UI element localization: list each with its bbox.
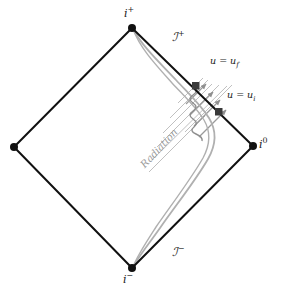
vertex-dot-left [10,143,18,151]
label-u-final-subscript: f [236,61,239,69]
label-i-minus-superscript: − [127,271,134,280]
penrose-diagram-figure: i+ i0 i− ℐ+ ℐ− u = uf u = ui Radiation [0,0,285,296]
scri-plus-superscript: + [178,29,185,38]
worldtube-outer-line [133,29,215,267]
penrose-diagram-canvas [0,0,285,296]
left-past-boundary-line [14,147,132,268]
label-scri-plus: ℐ+ [172,30,185,43]
radiation-rays-group [149,78,232,172]
vertex-dot-i-plus [128,24,136,32]
label-i-plus: i+ [124,6,134,19]
marker-square-u-initial [215,108,223,116]
collapsing-shell-worldtube [133,29,215,267]
marker-square-u-final [192,82,200,90]
label-i-zero: i0 [259,137,268,150]
radiation-ray [170,80,208,118]
label-u-final-text: u = u [210,55,236,66]
vertex-dot-i-zero [249,142,257,150]
scri-minus-superscript: − [178,244,185,253]
label-u-initial-text: u = u [227,89,253,100]
label-i-minus: i− [123,272,133,285]
label-u-final: u = uf [210,56,239,69]
radiation-ray [185,85,232,132]
label-u-initial: u = ui [227,90,255,103]
left-future-boundary-line [14,28,132,147]
label-i-plus-superscript: + [128,5,135,14]
label-u-initial-subscript: i [253,95,255,103]
label-i-zero-superscript: 0 [263,136,268,145]
label-scri-minus: ℐ− [172,245,185,258]
